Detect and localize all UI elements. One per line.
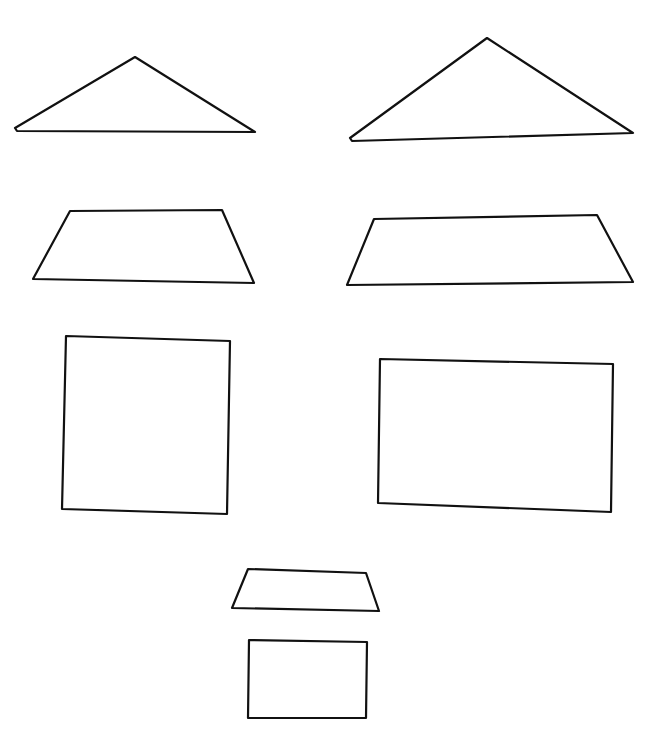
trapezoid-small	[232, 569, 379, 611]
triangle-small	[15, 57, 255, 132]
triangle-large	[350, 38, 633, 141]
trapezoid-left	[33, 210, 254, 283]
trapezoid-right	[347, 215, 633, 285]
rectangle-square	[62, 336, 230, 514]
shapes-diagram	[0, 0, 660, 731]
rectangle-small	[248, 640, 367, 718]
rectangle-wide	[378, 359, 613, 512]
